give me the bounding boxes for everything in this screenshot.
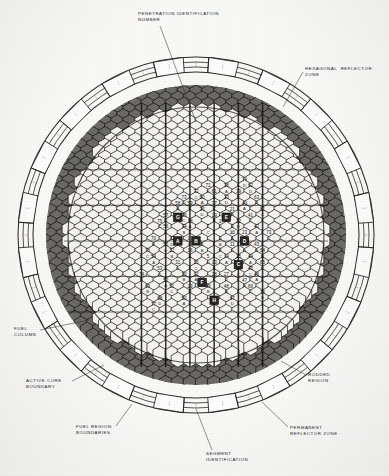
fuel-column-number: 68 (157, 296, 163, 301)
fuel-column-number: 62 (248, 183, 254, 188)
fuel-column-number: 47 (242, 278, 248, 283)
leader-line-permanent-reflector-zone (262, 402, 288, 427)
fuel-column-number: 60 (200, 195, 206, 200)
callout-fuel-region-boundaries: FUEL REGION BOUNDARIES (76, 424, 112, 436)
fuel-column-segment-letter: B (146, 289, 149, 294)
reflector-hex (238, 370, 251, 386)
penetration-identification-number: A (176, 239, 180, 244)
fuel-column-number: 72 (193, 189, 199, 194)
fuel-column-segment-letter: D (182, 200, 185, 205)
fuel-column-number: 73 (181, 195, 187, 200)
fuel-column-number: 78 (145, 248, 151, 253)
fuel-column-number: 50 (181, 296, 187, 301)
fuel-column-segment-letter: C (182, 218, 185, 223)
callout-hexagonal-reflector-zone: HEXAGONAL REFLECTOR ZONE (305, 66, 372, 78)
fuel-column-segment-letter: D (249, 189, 252, 194)
fuel-column-number: 20 (224, 195, 230, 200)
fuel-column-number: 41 (248, 213, 254, 218)
fuel-column-segment-letter: D (170, 242, 173, 247)
fuel-column-number: 67 (230, 296, 236, 301)
fuel-column-segment-letter: A (176, 206, 179, 211)
fuel-column-segment-letter: B (255, 248, 258, 253)
fuel-column-segment-letter: B (201, 248, 204, 253)
fuel-column-number: 74 (242, 177, 248, 182)
fuel-column-segment-letter: C (194, 195, 197, 200)
fuel-column-number: 38 (224, 183, 230, 188)
fuel-column-segment-letter: B (219, 242, 222, 247)
fuel-column-number: 10 (230, 230, 236, 235)
reactor-core-figure: 72C71D60A61B38A73D59B58A37C20D39C62D36D3… (0, 0, 389, 476)
fuel-column-segment-letter: C (194, 266, 197, 271)
fuel-column-segment-letter: A (182, 301, 185, 306)
penetration-identification-number: F (201, 280, 204, 285)
fuel-column-number: 21 (230, 207, 236, 212)
fuel-column-segment-letter: C (146, 254, 149, 259)
fuel-column-segment-letter: A (225, 260, 228, 265)
fuel-column-segment-letter: D (231, 301, 234, 306)
fuel-column-segment-letter: B (243, 248, 246, 253)
fuel-column-segment-letter: B (243, 283, 246, 288)
fuel-column-segment-letter: D (225, 200, 228, 205)
fuel-column-segment-letter: C (158, 272, 161, 277)
fuel-column-segment-letter: C (249, 218, 252, 223)
fuel-column-number: 54 (151, 254, 157, 259)
fuel-column-segment-letter: C (249, 272, 252, 277)
fuel-column-segment-letter: A (225, 289, 228, 294)
fuel-column-segment-letter: C (219, 254, 222, 259)
fuel-column-number: 15 (193, 260, 199, 265)
fuel-column-number: 51 (169, 284, 175, 289)
fuel-column-number: 71 (206, 183, 212, 188)
fuel-column-segment-letter: D (176, 266, 179, 271)
fuel-column-number: 77 (151, 302, 157, 307)
fuel-column-number: 11 (230, 242, 235, 247)
fuel-column-segment-letter: C (207, 230, 210, 235)
fuel-column-segment-letter: A (201, 200, 204, 205)
fuel-column-number: 48 (224, 284, 230, 289)
fuel-column-segment-letter: B (170, 254, 173, 259)
reflector-hex (195, 375, 208, 391)
fuel-column-segment-letter: A (225, 189, 228, 194)
fuel-column-segment-letter: D (207, 189, 210, 194)
fuel-column-number: 44 (248, 254, 254, 259)
fuel-column-segment-letter: C (158, 224, 161, 229)
reflector-hex (207, 375, 220, 391)
fuel-column-segment-letter: A (243, 206, 246, 211)
fuel-column-segment-letter: D (219, 224, 222, 229)
fuel-column-segment-letter: A (255, 230, 258, 235)
fuel-column-segment-letter: D (225, 277, 228, 282)
fuel-column-number: 73 (266, 230, 272, 235)
reflector-hex (141, 370, 154, 386)
fuel-column-number: 63 (254, 195, 260, 200)
fuel-column-segment-letter: A (195, 277, 198, 282)
fuel-column-segment-letter: C (170, 289, 173, 294)
fuel-column-segment-letter: B (207, 289, 210, 294)
fuel-column-number: 43 (254, 242, 260, 247)
fuel-column-segment-letter: C (267, 236, 270, 241)
fuel-column-number: 42 (254, 224, 260, 229)
fuel-column-segment-letter: C (249, 289, 252, 294)
fuel-column-segment-letter: D (207, 260, 210, 265)
fuel-column-segment-letter: B (182, 277, 185, 282)
active-core-hex-grid: 72C71D60A61B38A73D59B58A37C20D39C62D36D3… (62, 103, 330, 367)
callout-permanent-reflector-zone: PERMANENT REFLECTOR ZONE (290, 425, 338, 437)
fuel-column-number: 23 (242, 230, 248, 235)
fuel-column-number: 69 (145, 284, 151, 289)
leader-line-rodded-region (281, 361, 306, 375)
reflector-hex (159, 375, 172, 391)
fuel-column-segment-letter: A (152, 260, 155, 265)
leader-line-segment-identification (196, 409, 212, 450)
reflector-hex (183, 375, 196, 391)
fuel-column-number: 66 (248, 284, 254, 289)
fuel-column-segment-letter: D (201, 212, 204, 217)
leader-line-fuel-region-boundaries (116, 404, 132, 426)
fuel-column-number: 53 (157, 266, 163, 271)
fuel-column-segment-letter: C (152, 307, 155, 312)
penetration-identification-number: D (243, 239, 247, 244)
fuel-column-number: 14 (224, 254, 230, 259)
penetration-identification-number: B (194, 239, 198, 244)
fuel-column-number: 75 (157, 219, 163, 224)
fuel-column-number: 34 (181, 224, 187, 229)
callout-rodded-region: RODDED REGION (308, 372, 330, 384)
fuel-column-segment-letter: D (243, 183, 246, 188)
fuel-column-number: 36 (200, 207, 206, 212)
